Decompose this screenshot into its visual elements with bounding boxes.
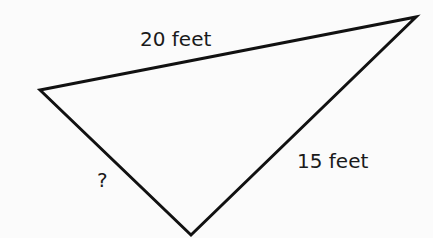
right-side-label: 15 feet [297, 149, 368, 173]
top-side-label: 20 feet [140, 27, 211, 51]
left-side-label: ? [97, 168, 108, 192]
triangle-diagram: 20 feet 15 feet ? [0, 0, 433, 238]
triangle [40, 17, 416, 235]
